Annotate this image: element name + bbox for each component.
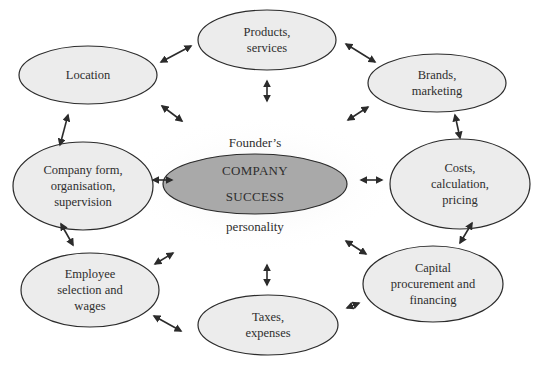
node-products: Products, services	[198, 10, 336, 70]
node-costs: Costs, calculation, pricing	[390, 139, 530, 229]
node-employee: Employee selection and wages	[21, 253, 159, 327]
node-capital: Capital procurement and financing	[363, 246, 503, 322]
node-center: COMPANY SUCCESS	[163, 154, 347, 214]
node-location-label: Location	[66, 67, 110, 83]
arrow-location-company-form	[60, 115, 68, 145]
node-taxes-label: Taxes, expenses	[245, 309, 290, 341]
arrow-location-products	[161, 46, 191, 62]
arrow-brands-costs	[455, 115, 460, 138]
center-line1: COMPANY	[222, 158, 288, 184]
arrow-brands-center	[348, 107, 368, 120]
node-company-form-label: Company form, organisation, supervision	[43, 162, 122, 210]
node-brands-label: Brands, marketing	[412, 67, 463, 99]
node-products-label: Products, services	[244, 24, 291, 56]
node-company-form: Company form, organisation, supervision	[13, 142, 153, 230]
node-capital-label: Capital procurement and financing	[391, 260, 475, 308]
node-employee-label: Employee selection and wages	[57, 266, 123, 314]
arrow-location-center	[162, 106, 182, 121]
center-line2: SUCCESS	[226, 184, 284, 210]
node-taxes: Taxes, expenses	[198, 295, 338, 355]
node-brands: Brands, marketing	[368, 54, 506, 112]
personality-label: personality	[200, 219, 310, 235]
node-location: Location	[19, 46, 157, 104]
founders-label: Founder’s	[200, 135, 310, 151]
node-costs-label: Costs, calculation, pricing	[431, 160, 489, 208]
arrow-taxes-capital	[347, 303, 359, 308]
